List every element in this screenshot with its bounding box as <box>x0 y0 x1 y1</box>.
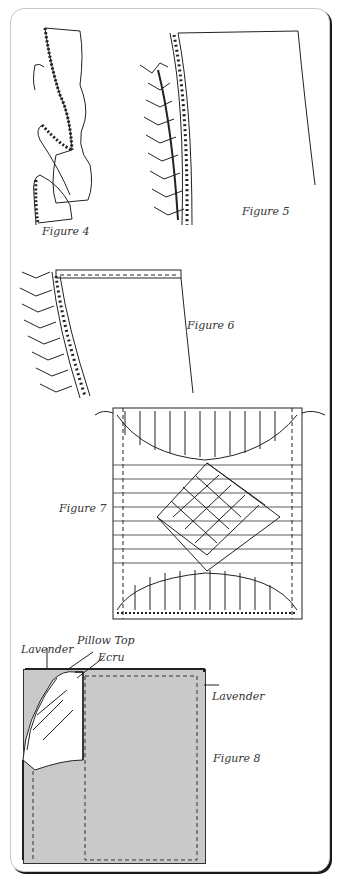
figure-5-illustration <box>130 25 320 230</box>
figure-4-label: Figure 4 <box>42 225 90 238</box>
figure-6-illustration <box>18 268 193 403</box>
callout-lavender-top: Lavender <box>21 643 73 656</box>
figure-5-label: Figure 5 <box>242 205 290 218</box>
callout-pillow-top: Pillow Top <box>77 634 135 647</box>
figure-7-illustration <box>95 405 325 623</box>
figure-6-label: Figure 6 <box>187 319 235 332</box>
figure-4-illustration <box>30 25 110 225</box>
callout-ecru: Ecru <box>98 651 125 664</box>
figure-8-illustration <box>23 660 208 865</box>
callout-lavender-right: Lavender <box>212 690 264 703</box>
figure-8-label: Figure 8 <box>213 752 261 765</box>
figure-7-label: Figure 7 <box>59 502 107 515</box>
